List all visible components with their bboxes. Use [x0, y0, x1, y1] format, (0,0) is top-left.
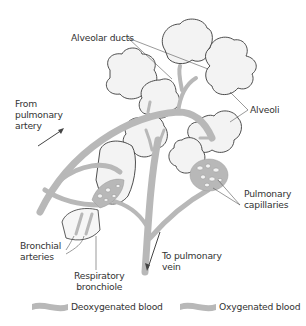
label-bronchial-arteries: Bronchial arteries [20, 240, 61, 262]
label-line: artery [15, 120, 63, 131]
alveolus-right [206, 37, 257, 94]
label-line: To pulmonary [162, 250, 222, 261]
label-alveoli: Alveoli [250, 104, 279, 115]
label-alveolar-ducts: Alveolar ducts [71, 32, 134, 43]
legend-oxygenated-label: Oxygenated blood [219, 301, 300, 312]
label-from-pulmonary-artery: From pulmonary artery [15, 98, 63, 131]
label-line: From [15, 98, 63, 109]
label-line: Pulmonary [244, 188, 291, 199]
legend-deoxygenated-label: Deoxygenated blood [71, 301, 163, 312]
label-line: Bronchial [20, 240, 61, 251]
label-line: Respiratory [74, 270, 124, 281]
label-line: bronchiole [74, 281, 124, 292]
label-line: pulmonary [15, 109, 63, 120]
pulmonary-capillary-network [190, 159, 228, 191]
lung-alveoli-diagram [0, 0, 306, 326]
alveolus-top [162, 19, 212, 64]
oxygenated-swatch [180, 303, 216, 311]
deoxygenated-swatch [32, 303, 68, 311]
bronchiole-capillary-network [62, 179, 124, 240]
label-to-pulmonary-vein: To pulmonary vein [162, 250, 222, 272]
label-line: arteries [20, 251, 61, 262]
label-line: capillaries [244, 199, 291, 210]
label-pulmonary-capillaries: Pulmonary capillaries [244, 188, 291, 210]
label-respiratory-bronchiole: Respiratory bronchiole [74, 270, 124, 292]
label-line: vein [162, 261, 222, 272]
